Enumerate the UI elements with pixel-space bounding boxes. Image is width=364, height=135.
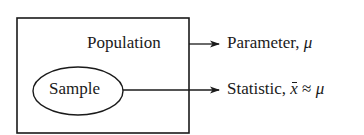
mu-symbol: μ — [316, 79, 325, 98]
sample-label: Sample — [49, 79, 100, 99]
population-label: Population — [87, 33, 161, 53]
approx-symbol: ≈ — [298, 79, 316, 98]
mu-symbol: μ — [304, 33, 313, 52]
statistic-text: Statistic, — [227, 79, 290, 98]
parameter-text: Parameter, — [227, 33, 304, 52]
parameter-label: Parameter, μ — [227, 33, 312, 53]
x-bar-symbol: x — [290, 79, 298, 99]
statistic-label: Statistic, x ≈ μ — [227, 79, 324, 99]
diagram-canvas — [0, 0, 364, 135]
